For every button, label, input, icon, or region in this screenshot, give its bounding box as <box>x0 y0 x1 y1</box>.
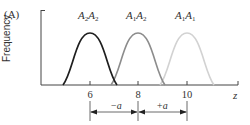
arrow-in-right-icon <box>139 110 146 115</box>
x-tick-label-6: 6 <box>87 90 92 101</box>
y-axis-label: Frequency <box>2 15 12 62</box>
plus-a-label: +a <box>156 101 168 111</box>
genotype-label-A1A1: A1A1 <box>175 10 195 23</box>
arrow-left-icon <box>90 110 97 115</box>
curve-A1A1 <box>160 33 214 85</box>
curve-A1A2 <box>111 33 165 85</box>
x-axis-label: z <box>233 90 237 101</box>
genotype-label-A1A2: A1A2 <box>126 10 146 23</box>
x-tick-label-8: 8 <box>135 90 140 101</box>
genotype-label-A2A2: A2A2 <box>78 10 98 23</box>
x-tick-label-10: 10 <box>182 90 193 101</box>
minus-a-label: −a <box>110 101 122 111</box>
curve-A2A2 <box>63 33 117 85</box>
chart-canvas <box>0 0 250 125</box>
arrow-right-icon <box>180 110 187 115</box>
arrow-in-left-icon <box>131 110 138 115</box>
